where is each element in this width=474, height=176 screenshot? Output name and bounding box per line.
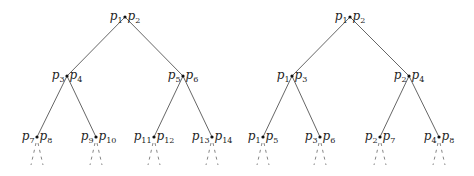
- tree-node-rr: p4p8: [424, 129, 455, 145]
- continuation-edge: [440, 143, 445, 165]
- continuation-edge: [31, 143, 36, 165]
- node-dot: [407, 74, 410, 77]
- node-label-right: p14: [215, 129, 233, 145]
- tree-edge: [409, 76, 439, 137]
- node-label-left: p9: [81, 129, 94, 145]
- subscript: 6: [193, 75, 198, 84]
- node-label-left: p11: [134, 129, 152, 145]
- node-dot: [290, 74, 293, 77]
- continuation-edge: [374, 143, 379, 165]
- subscript: 4: [431, 136, 436, 145]
- node-label-right: p3: [295, 68, 308, 84]
- tree-node-rl: p2p7: [365, 129, 396, 145]
- subscript: 2: [135, 16, 140, 25]
- tree-node-rr: p13p14: [192, 129, 233, 145]
- node-label-right: p2: [128, 9, 141, 25]
- node-label-right: p12: [157, 129, 175, 145]
- continuation-edge: [155, 143, 160, 165]
- node-label-left: p3: [52, 68, 65, 84]
- node-dot: [437, 135, 440, 138]
- continuation-edge: [321, 143, 326, 165]
- continuation-edge: [433, 143, 438, 165]
- tree-node-lr: p3p6: [305, 129, 336, 145]
- node-dot: [94, 135, 97, 138]
- tree-node-root: p1p2: [335, 9, 366, 25]
- node-label-right: p6: [186, 68, 199, 84]
- node-label-left: p2: [365, 129, 378, 145]
- continuation-edge: [148, 143, 153, 165]
- node-dot: [123, 15, 126, 18]
- node-label-right: p5: [266, 129, 279, 145]
- tree-node-ll: p1p5: [248, 129, 279, 145]
- continuation-edge: [97, 143, 102, 165]
- node-label-left: p1: [277, 68, 290, 84]
- node-dot: [152, 135, 155, 138]
- node-label-right: p2: [353, 9, 366, 25]
- node-label-right: p4: [412, 68, 425, 84]
- node-label-right: p6: [323, 129, 336, 145]
- tree-edge: [292, 76, 320, 137]
- subscript: 1: [255, 136, 260, 145]
- subscript: 8: [449, 136, 454, 145]
- tree-edge: [67, 76, 96, 137]
- subscript: 7: [390, 136, 395, 145]
- subscript: 3: [59, 75, 64, 84]
- tree-edge: [154, 76, 183, 137]
- subscript: 2: [372, 136, 377, 145]
- node-label-left: p1: [110, 9, 123, 25]
- node-dot: [210, 135, 213, 138]
- subscript: 9: [88, 136, 93, 145]
- tree-edge: [380, 76, 409, 137]
- subscript: 1: [342, 16, 347, 25]
- left-tree: p1p2p3p4p5p6p7p8p9p10p11p12p13p14: [22, 9, 233, 165]
- subscript: 2: [360, 16, 365, 25]
- tree-node-lr: p9p10: [81, 129, 117, 145]
- node-dot: [181, 74, 184, 77]
- subscript: 3: [302, 75, 307, 84]
- tree-node-l: p1p3: [277, 68, 308, 84]
- subscript: 12: [164, 136, 174, 145]
- subscript: 11: [141, 136, 151, 145]
- subscript: 2: [401, 75, 406, 84]
- tree-edge: [263, 76, 292, 137]
- node-label-left: p7: [22, 129, 35, 145]
- tree-edge: [37, 76, 67, 137]
- node-label-left: p4: [424, 129, 437, 145]
- subscript: 7: [29, 136, 34, 145]
- continuation-edge: [314, 143, 319, 165]
- subscript: 1: [284, 75, 289, 84]
- tree-node-r: p2p4: [394, 68, 425, 84]
- subscript: 5: [175, 75, 180, 84]
- node-label-right: p8: [40, 129, 53, 145]
- subscript: 6: [330, 136, 335, 145]
- node-dot: [318, 135, 321, 138]
- continuation-edge: [206, 143, 211, 165]
- subscript: 4: [77, 75, 82, 84]
- node-label-left: p2: [394, 68, 407, 84]
- node-label-left: p3: [305, 129, 318, 145]
- node-label-left: p1: [248, 129, 261, 145]
- node-label-right: p10: [99, 129, 117, 145]
- node-dot: [65, 74, 68, 77]
- node-label-right: p8: [442, 129, 455, 145]
- tree-node-ll: p7p8: [22, 129, 53, 145]
- node-label-left: p5: [168, 68, 181, 84]
- subscript: 13: [199, 136, 209, 145]
- node-dot: [378, 135, 381, 138]
- node-label-left: p13: [192, 129, 210, 145]
- continuation-edge: [257, 143, 262, 165]
- tree-node-l: p3p4: [52, 68, 83, 84]
- subscript: 5: [273, 136, 278, 145]
- tree-diagram: p1p2p3p4p5p6p7p8p9p10p11p12p13p14 p1p2p1…: [0, 0, 474, 176]
- subscript: 10: [106, 136, 116, 145]
- subscript: 8: [47, 136, 52, 145]
- subscript: 4: [419, 75, 424, 84]
- continuation-edge: [381, 143, 386, 165]
- continuation-edge: [264, 143, 269, 165]
- tree-node-rl: p11p12: [134, 129, 175, 145]
- tree-node-r: p5p6: [168, 68, 199, 84]
- node-dot: [35, 135, 38, 138]
- subscript: 3: [312, 136, 317, 145]
- tree-edge: [183, 76, 212, 137]
- subscript: 1: [117, 16, 122, 25]
